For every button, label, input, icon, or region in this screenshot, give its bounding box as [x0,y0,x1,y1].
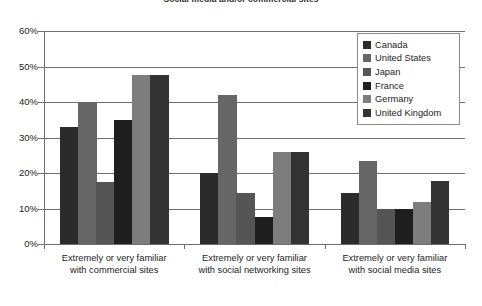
legend-label: United States [375,53,431,63]
legend-label: Canada [375,40,408,50]
x-axis-tick-mark [465,244,466,249]
bar [395,209,413,245]
bar [413,202,431,244]
bar [431,181,449,244]
legend-item-japan[interactable]: Japan [363,65,454,79]
x-axis-tick-mark [184,244,185,249]
x-axis-category-label-line: with commercial sites [38,264,190,276]
x-axis-category-label: Extremely or very familiarwith commercia… [38,252,190,277]
bar [96,182,114,244]
x-axis-category-label: Extremely or very familiarwith social ne… [178,252,330,277]
x-axis-category-label-line: with social media sites [319,264,471,276]
bar [60,127,78,244]
y-axis-tick-label: 10% [4,203,38,214]
legend: CanadaUnited StatesJapanFranceGermanyUni… [357,33,460,125]
bar [341,193,359,244]
legend-label: France [375,81,404,91]
y-axis-tick-label: 20% [4,167,38,178]
bar [359,161,377,244]
y-axis-tick-label: 30% [4,132,38,143]
bar [114,120,132,244]
y-axis-tick-mark [38,244,44,245]
x-axis-category-label-line: Extremely or very familiar [38,252,190,264]
legend-swatch-icon [363,109,371,117]
legend-item-germany[interactable]: Germany [363,92,454,106]
legend-swatch-icon [363,41,371,49]
x-axis-category-label-line: Extremely or very familiar [178,252,330,264]
legend-item-united-kingdom[interactable]: United Kingdom [363,106,454,120]
legend-item-united-states[interactable]: United States [363,52,454,66]
y-axis-tick-mark [38,209,44,210]
y-axis-tick-mark [38,31,44,32]
x-axis-category-label-line: Extremely or very familiar [319,252,471,264]
legend-swatch-icon [363,68,371,76]
bar [132,75,150,244]
bar [236,193,254,244]
legend-label: United Kingdom [375,108,441,118]
bar [273,152,291,244]
legend-swatch-icon [363,95,371,103]
chart-container: Social media and/or commercial sites 0%1… [0,0,482,306]
y-axis-tick-mark [38,138,44,139]
y-axis-tick-mark [38,102,44,103]
x-axis-tick-mark [44,244,45,249]
legend-swatch-icon [363,54,371,62]
bar [200,173,218,244]
legend-label: Japan [375,67,400,77]
y-axis-tick-label: 40% [4,96,38,107]
y-axis-tick-label: 50% [4,61,38,72]
bar [291,152,309,244]
x-axis-line [44,244,466,245]
bar [377,209,395,245]
x-axis-category-label: Extremely or very familiarwith social me… [319,252,471,277]
x-axis-tick-mark [325,244,326,249]
legend-item-canada[interactable]: Canada [363,38,454,52]
bar [78,102,96,244]
bar [255,217,273,244]
chart-title: Social media and/or commercial sites [0,0,482,4]
y-axis-tick-mark [38,173,44,174]
y-axis-tick-labels: 0%10%20%30%40%50%60% [0,31,38,245]
legend-item-france[interactable]: France [363,79,454,93]
y-axis-tick-label: 0% [4,238,38,249]
bar [150,75,168,244]
y-axis-tick-label: 60% [4,25,38,36]
bar [218,95,236,244]
legend-label: Germany [375,94,413,104]
legend-swatch-icon [363,82,371,90]
y-axis-tick-mark [38,67,44,68]
x-axis-category-label-line: with social networking sites [178,264,330,276]
